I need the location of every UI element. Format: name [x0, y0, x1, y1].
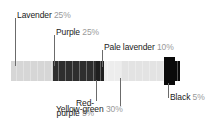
- label-lavender-pct: 25%: [54, 10, 71, 20]
- leader-line-red-purple: [96, 80, 97, 101]
- label-black-name: Black: [170, 92, 190, 102]
- bar-segment-pale-lavender: [104, 61, 121, 81]
- label-pale-lavender-name: Pale lavender: [104, 42, 155, 52]
- proportion-bar: [11, 61, 180, 81]
- leader-line-pale-lavender: [102, 50, 103, 67]
- label-purple-pct: 25%: [82, 27, 99, 37]
- label-black-pct: 5%: [193, 92, 205, 102]
- label-black: Black 5%: [170, 92, 205, 102]
- label-yellow-green: Yellow-green 30%: [56, 104, 123, 114]
- label-lavender-name: Lavender: [17, 10, 52, 20]
- leader-line-yellow-green: [120, 78, 121, 106]
- label-yellow-green-pct: 30%: [106, 104, 123, 114]
- bar-segment-lavender: [11, 61, 53, 81]
- label-yellow-green-name: Yellow-green: [56, 104, 104, 114]
- color-proportion-figure: Lavender 25% Purple 25% Pale lavender 10…: [0, 0, 213, 126]
- label-purple: Purple 25%: [56, 27, 99, 37]
- leader-line-purple: [54, 35, 55, 66]
- leader-line-black: [168, 83, 169, 98]
- bar-segment-black: [164, 57, 175, 85]
- label-lavender: Lavender 25%: [17, 10, 71, 20]
- label-pale-lavender-pct: 10%: [157, 42, 174, 52]
- label-pale-lavender: Pale lavender 10%: [104, 42, 174, 52]
- leader-line-lavender: [15, 18, 16, 66]
- bar-segment-purple: [53, 61, 95, 81]
- label-purple-name: Purple: [56, 27, 80, 37]
